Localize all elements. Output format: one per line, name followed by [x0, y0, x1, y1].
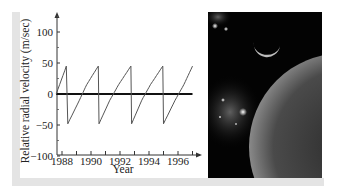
star: [212, 23, 218, 29]
x-tick-label: 1988: [51, 155, 74, 167]
y-axis-title: Relative radial velocity (m/sec): [19, 19, 32, 164]
x-tick-label: 1994: [138, 155, 161, 167]
velocity-curve: [56, 66, 192, 124]
x-axis-arrow-icon: [196, 153, 202, 158]
y-tick-label: 0: [48, 88, 54, 100]
x-axis-title: Year: [112, 163, 133, 175]
radial-velocity-chart: 100500−50−100 19881990199219941996 Year …: [0, 0, 210, 195]
x-tick-label: 1990: [80, 155, 103, 167]
space-scene-image: [208, 12, 322, 178]
axes: [55, 12, 203, 158]
y-tick-label: 50: [42, 57, 54, 69]
y-tick-label: 100: [37, 26, 54, 38]
y-axis-arrow-icon: [55, 12, 60, 18]
y-tick-label: −50: [36, 119, 54, 131]
y-tick-label: −100: [30, 150, 53, 162]
y-ticks: 100500−50−100: [30, 17, 60, 163]
space-photo: [208, 12, 322, 178]
x-tick-label: 1996: [167, 155, 190, 167]
